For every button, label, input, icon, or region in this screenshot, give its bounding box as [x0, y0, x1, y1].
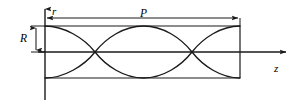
upper-arc-segment-3 — [192, 26, 240, 52]
figure-canvas — [0, 0, 296, 111]
lower-arc-segment-3 — [192, 52, 240, 78]
beam-envelope-figure: r z P R — [0, 0, 296, 111]
radius-label: R — [20, 33, 27, 45]
lower-arc-segment-2 — [95, 52, 192, 78]
radius-dimension-group — [31, 26, 45, 52]
lower-arc-segment-1 — [45, 52, 95, 78]
upper-arc-segment-1 — [45, 26, 95, 52]
r-axis-label: r — [52, 6, 56, 17]
axes-group — [38, 9, 286, 100]
z-axis-label: z — [274, 63, 278, 74]
period-label: P — [140, 8, 147, 20]
upper-arc-segment-2 — [95, 26, 192, 52]
